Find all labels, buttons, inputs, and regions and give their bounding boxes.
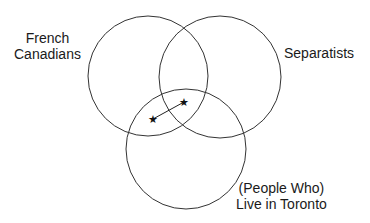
label-people-who: (People Who) bbox=[236, 180, 327, 196]
label-separatists: Separatists bbox=[284, 45, 354, 61]
label-live-in-toronto-text: Live in Toronto bbox=[236, 196, 327, 212]
circle-separatists bbox=[159, 16, 281, 138]
label-french-canadians: French Canadians bbox=[14, 30, 81, 62]
star-icon: ★ bbox=[179, 97, 189, 108]
star-icon: ★ bbox=[148, 114, 158, 125]
venn-diagram: French Canadians Separatists (People Who… bbox=[0, 0, 370, 223]
label-canadians: Canadians bbox=[14, 46, 81, 62]
label-french: French bbox=[14, 30, 81, 46]
label-live-in-toronto: (People Who) Live in Toronto bbox=[236, 180, 327, 212]
label-separatists-text: Separatists bbox=[284, 45, 354, 61]
